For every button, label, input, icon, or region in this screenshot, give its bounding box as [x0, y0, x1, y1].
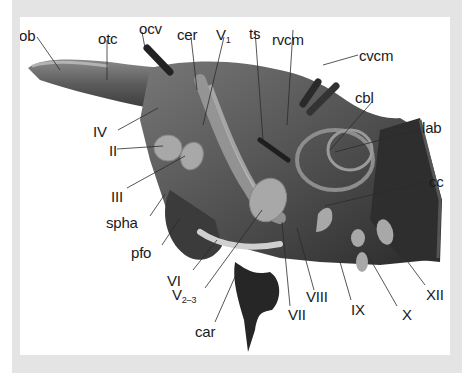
label-VIII: VIII	[306, 289, 328, 304]
nerve-IX-stump	[351, 229, 365, 247]
carotid-shape	[234, 262, 279, 352]
label-ob: ob	[20, 28, 35, 43]
label-otc: otc	[98, 31, 117, 46]
label-V1: V1	[216, 27, 231, 45]
label-cvcm: cvcm	[359, 48, 393, 63]
label-X: X	[402, 307, 412, 322]
label-V23: V2–3	[172, 287, 196, 305]
label-pfo: pfo	[131, 245, 151, 260]
nerve-II-stump	[154, 135, 182, 161]
nerve-X-stump	[356, 252, 368, 272]
figure-panel: ob otc ocv cer V1 ts rvcm cvcm cbl lab c…	[20, 17, 450, 355]
endocast-illustration	[20, 17, 450, 355]
label-spha: spha	[106, 215, 138, 230]
label-IX: IX	[351, 302, 365, 317]
label-VII: VII	[288, 307, 306, 322]
label-rvcm: rvcm	[272, 32, 304, 47]
label-cc: cc	[429, 174, 444, 189]
label-IV: IV	[93, 124, 107, 139]
label-lab: lab	[422, 120, 441, 135]
label-ocv: ocv	[139, 21, 162, 36]
label-II: II	[109, 143, 117, 158]
label-ts: ts	[249, 26, 260, 41]
label-cer: cer	[177, 27, 197, 42]
label-cbl: cbl	[355, 90, 374, 105]
label-XII: XII	[426, 287, 444, 302]
label-car: car	[195, 324, 215, 339]
label-III: III	[111, 189, 123, 204]
